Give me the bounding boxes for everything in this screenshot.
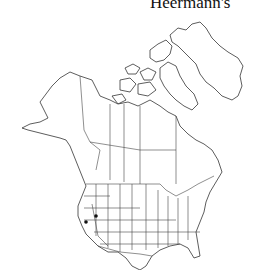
baffin-island-outline <box>160 62 198 110</box>
arctic-island-4 <box>138 82 156 96</box>
arctic-island-1 <box>125 64 140 74</box>
arctic-island-2 <box>140 68 156 80</box>
ellesmere-island-outline <box>150 40 172 62</box>
north-america-map <box>0 0 267 270</box>
occurrence-dot-california <box>84 220 88 224</box>
occurrence-dot-nevada <box>94 214 98 218</box>
arctic-island-3 <box>120 78 136 92</box>
